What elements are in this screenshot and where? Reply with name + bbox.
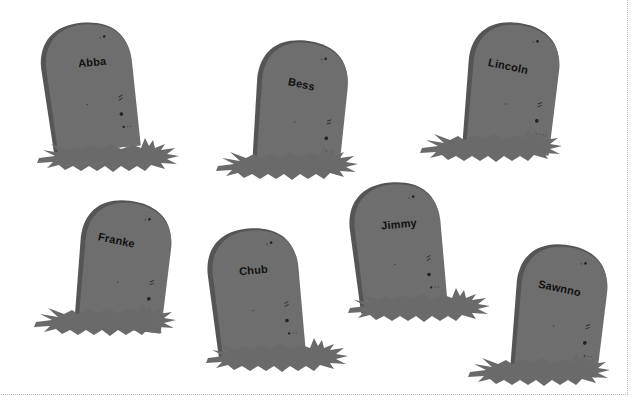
tombstone-graphic: [32, 194, 182, 354]
tombstone-name-label: Chub: [239, 263, 269, 277]
tombstone-sawnno: Sawnno: [466, 240, 616, 400]
tombstone-bess: Bess: [214, 32, 364, 192]
tombstone-graphic: [203, 224, 353, 384]
tombstone-franke: Franke: [32, 194, 182, 354]
tombstone-chub: Chub: [203, 224, 353, 384]
tombstone-graphic: [418, 16, 568, 176]
tombstone-lincoln: Lincoln: [418, 16, 568, 176]
tombstone-graphic: [34, 18, 184, 178]
tombstone-abba: Abba: [34, 18, 184, 178]
tombstone-graphic: [214, 32, 364, 192]
tombstone-name-label: Abba: [78, 55, 107, 69]
tombstone-graphic: [466, 240, 616, 400]
